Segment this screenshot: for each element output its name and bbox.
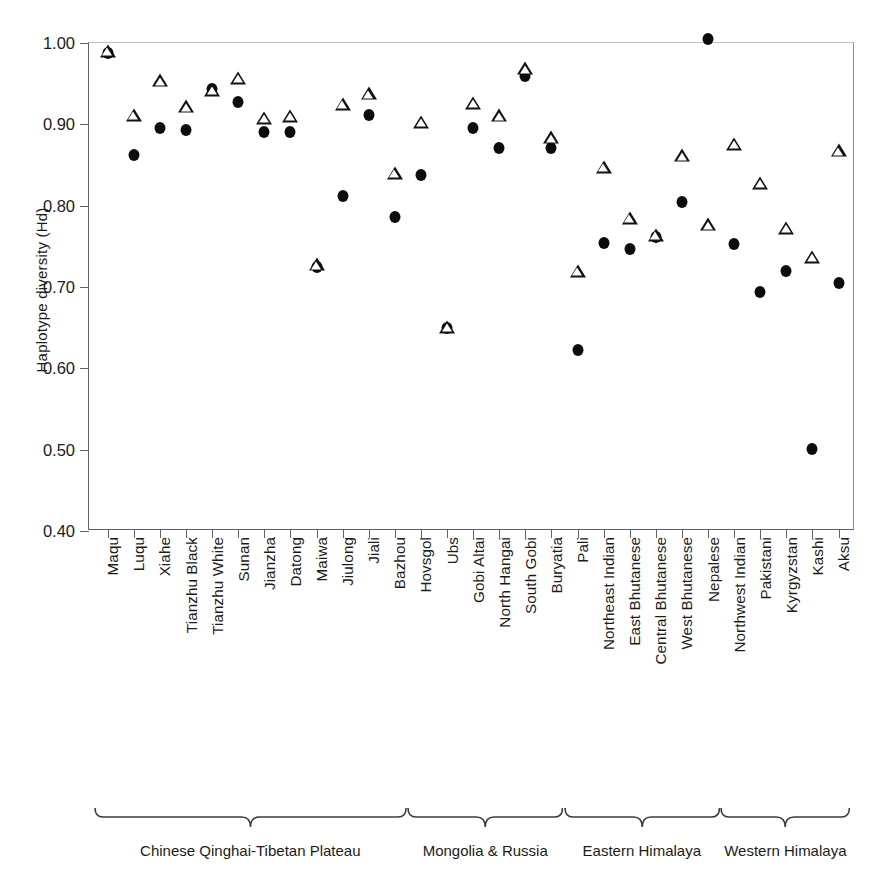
data-point-circle: [285, 126, 296, 138]
data-point-circle: [703, 33, 714, 45]
x-axis-label: Jianzha: [260, 537, 277, 590]
data-point-circle: [259, 126, 270, 138]
data-point-triangle: [622, 211, 638, 224]
x-axis-label: Luqu: [130, 537, 147, 571]
x-axis-label: Hovsgol: [417, 537, 434, 593]
x-axis-label: Pali: [574, 537, 591, 563]
plot-area: 0.400.500.600.700.800.901.00: [88, 42, 854, 530]
data-point-triangle: [570, 264, 586, 277]
data-point-circle: [833, 277, 844, 289]
x-axis-label: South Gobi: [521, 537, 538, 614]
group-brace: Mongolia & Russia: [407, 806, 563, 894]
group-label: Mongolia & Russia: [407, 842, 563, 859]
data-point-circle: [676, 196, 687, 208]
data-point-triangle: [335, 98, 351, 111]
x-axis-label: Northwest Indian: [730, 537, 747, 653]
x-axis-label: West Bhutanese: [678, 537, 695, 650]
data-point-circle: [181, 124, 192, 136]
brace-icon: [564, 806, 720, 836]
x-axis-label: Nepalese: [704, 537, 721, 602]
y-tick-mark: [80, 206, 89, 207]
y-tick-label: 0.70: [43, 278, 75, 297]
x-axis-label: Ubs: [443, 537, 460, 564]
brace-icon: [720, 806, 850, 836]
group-label: Chinese Qinghai-Tibetan Plateau: [94, 842, 407, 859]
data-point-circle: [415, 169, 426, 181]
data-point-triangle: [465, 97, 481, 110]
group-brace: Eastern Himalaya: [564, 806, 720, 894]
y-tick-label: 0.40: [43, 522, 75, 541]
x-axis-label: Kyrgyzstan: [782, 537, 799, 613]
data-point-triangle: [309, 258, 325, 271]
data-point-triangle: [230, 71, 246, 84]
x-axis-label: East Bhutanese: [626, 537, 643, 646]
data-point-triangle: [256, 111, 272, 124]
data-point-circle: [598, 237, 609, 249]
y-tick-label: 0.60: [43, 359, 75, 378]
data-point-circle: [468, 122, 479, 134]
data-point-triangle: [439, 320, 455, 333]
data-point-triangle: [413, 115, 429, 128]
data-point-triangle: [648, 228, 664, 241]
y-tick-label: 0.80: [43, 196, 75, 215]
y-tick-mark: [80, 43, 89, 44]
group-label: Eastern Himalaya: [564, 842, 720, 859]
x-axis-label: Aksu: [835, 537, 852, 571]
y-tick-mark: [80, 531, 89, 532]
brace-icon: [407, 806, 563, 836]
data-point-circle: [755, 286, 766, 298]
data-point-circle: [807, 443, 818, 455]
data-point-triangle: [752, 176, 768, 189]
y-tick-mark: [80, 450, 89, 451]
data-point-triangle: [596, 160, 612, 173]
x-axis-label: Northeast Indian: [600, 537, 617, 650]
x-axis-label: Buryatia: [547, 537, 564, 594]
x-axis-label: Tianzhu Black: [182, 537, 199, 633]
data-point-circle: [154, 122, 165, 134]
x-axis-label: Jiulong: [339, 537, 356, 586]
group-brace: Chinese Qinghai-Tibetan Plateau: [94, 806, 407, 894]
chart-root: Haplotype diversity (Hd) 0.400.500.600.7…: [0, 0, 871, 894]
y-tick-label: 1.00: [43, 34, 75, 53]
data-point-circle: [128, 149, 139, 161]
y-tick-mark: [80, 287, 89, 288]
data-point-triangle: [204, 84, 220, 97]
x-axis-label: Sunan: [234, 537, 251, 581]
x-axis-label: Maiwa: [313, 537, 330, 581]
x-axis-labels: MaquLuquXiaheTianzhu BlackTianzhu WhiteS…: [88, 537, 854, 787]
y-tick-mark: [80, 124, 89, 125]
data-point-triangle: [361, 87, 377, 100]
x-axis-label: Maqu: [104, 537, 121, 575]
data-point-circle: [363, 109, 374, 121]
x-axis-label: North Hangai: [495, 537, 512, 628]
x-axis-label: Pakistani: [756, 537, 773, 600]
data-point-triangle: [831, 144, 847, 157]
x-axis-label: Central Bhutanese: [652, 537, 669, 665]
brace-icon: [94, 806, 407, 836]
data-point-triangle: [152, 74, 168, 87]
data-point-circle: [494, 142, 505, 154]
x-axis-label: Kashi: [808, 537, 825, 576]
x-axis-label: Gobi Altai: [469, 537, 486, 603]
data-point-triangle: [674, 149, 690, 162]
data-point-layer: [89, 43, 853, 529]
data-point-triangle: [778, 221, 794, 234]
y-tick-label: 0.50: [43, 440, 75, 459]
data-point-triangle: [387, 167, 403, 180]
data-point-triangle: [517, 62, 533, 75]
y-tick-label: 0.90: [43, 115, 75, 134]
data-point-triangle: [804, 250, 820, 263]
data-point-circle: [572, 344, 583, 356]
data-point-circle: [389, 211, 400, 223]
x-axis-label: Jiali: [365, 537, 382, 564]
x-axis-label: Datong: [286, 537, 303, 587]
data-point-circle: [781, 265, 792, 277]
data-point-triangle: [491, 109, 507, 122]
group-brace: Western Himalaya: [720, 806, 850, 894]
data-point-triangle: [726, 137, 742, 150]
data-point-circle: [729, 238, 740, 250]
data-point-triangle: [100, 45, 116, 58]
x-axis-label: Bazhou: [391, 537, 408, 589]
x-axis-label: Xiahe: [156, 537, 173, 576]
data-point-circle: [624, 243, 635, 255]
